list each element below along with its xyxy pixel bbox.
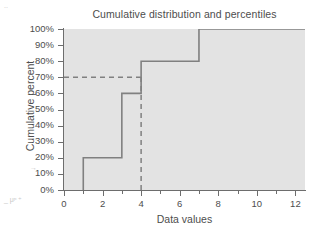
x-tick-label: 0 <box>52 198 76 209</box>
series-layer <box>64 29 305 190</box>
y-tick-label: 10% <box>35 168 54 178</box>
x-tick-label: 12 <box>283 198 307 209</box>
cumulative-distribution-step-line <box>83 29 305 190</box>
x-axis-line <box>63 190 306 191</box>
y-tick-mark <box>58 126 63 127</box>
y-tick-label: 50% <box>35 104 54 114</box>
y-axis-title: Cumulative percent <box>24 26 36 186</box>
chart-container: .. → _ μᵖ ⁺ Cumulative distribution and … <box>0 0 318 233</box>
y-tick-mark <box>58 93 63 94</box>
x-minor-tick-mark <box>83 191 84 194</box>
scan-artifact-top-left: .. <box>4 2 8 9</box>
x-minor-tick-mark <box>199 191 200 194</box>
x-minor-tick-mark <box>276 191 277 194</box>
x-tick-mark <box>180 191 181 196</box>
y-tick-label: 40% <box>35 120 54 130</box>
y-tick-mark <box>58 174 63 175</box>
y-tick-mark <box>58 142 63 143</box>
y-tick-mark <box>58 61 63 62</box>
x-minor-tick-mark <box>122 191 123 194</box>
chart-title: Cumulative distribution and percentiles <box>64 8 305 20</box>
y-tick-mark <box>58 29 63 30</box>
y-tick-label: 70% <box>35 72 54 82</box>
y-tick-label: 30% <box>35 136 54 146</box>
y-axis-line <box>63 28 64 191</box>
x-tick-mark <box>295 191 296 196</box>
y-tick-mark <box>58 190 63 191</box>
x-tick-label: 2 <box>91 198 115 209</box>
x-minor-tick-mark <box>160 191 161 194</box>
y-tick-label: 90% <box>35 40 54 50</box>
x-tick-mark <box>103 191 104 196</box>
x-axis-title: Data values <box>64 213 305 225</box>
y-tick-mark <box>58 77 63 78</box>
x-tick-mark <box>218 191 219 196</box>
plot-area <box>64 29 305 190</box>
x-minor-tick-mark <box>238 191 239 194</box>
scan-artifact-bottom-left: _ μᵖ ⁺ <box>4 196 22 204</box>
x-tick-label: 4 <box>129 198 153 209</box>
y-tick-label: 0% <box>40 185 54 195</box>
x-tick-mark <box>64 191 65 196</box>
y-tick-label: 60% <box>35 88 54 98</box>
x-tick-mark <box>141 191 142 196</box>
x-tick-label: 8 <box>206 198 230 209</box>
y-tick-mark <box>58 110 63 111</box>
x-tick-label: 10 <box>245 198 269 209</box>
y-tick-label: 20% <box>35 152 54 162</box>
y-tick-label: 80% <box>35 56 54 66</box>
y-tick-mark <box>58 158 63 159</box>
y-tick-mark <box>58 45 63 46</box>
x-tick-label: 6 <box>168 198 192 209</box>
x-tick-mark <box>257 191 258 196</box>
